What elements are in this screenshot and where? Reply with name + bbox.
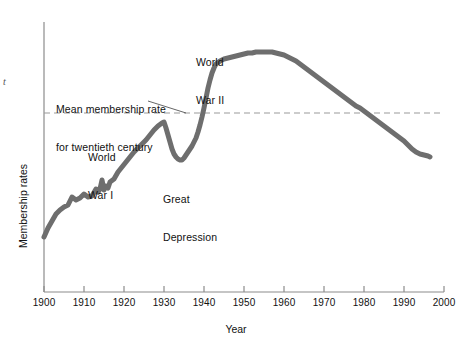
annotation-ww2-line-2: War II	[196, 94, 224, 107]
annotation-world-war-ii: World War II	[196, 31, 224, 131]
annotation-ww2-line-1: World	[196, 56, 224, 69]
x-axis-title: Year	[225, 323, 246, 335]
x-tick-label-1910: 1910	[73, 297, 96, 308]
y-axis-title: Membership rates	[17, 141, 29, 271]
x-tick-label-1980: 1980	[353, 297, 376, 308]
annotation-world-war-i: World War I	[88, 126, 116, 226]
annotation-depression-line-1: Great	[163, 193, 217, 206]
x-tick-label-2000: 2000	[433, 297, 456, 308]
x-tick-label-1960: 1960	[273, 297, 296, 308]
x-tick-label-1970: 1970	[313, 297, 336, 308]
corner-mark: t	[3, 76, 6, 87]
annotation-mean-line-1: Mean membership rate	[56, 103, 166, 116]
annotation-ww1-line-2: War I	[88, 189, 116, 202]
x-tick-label-1920: 1920	[113, 297, 136, 308]
x-tick-label-1900: 1900	[33, 297, 56, 308]
x-axis-ticks	[44, 286, 444, 292]
x-tick-label-1950: 1950	[233, 297, 256, 308]
annotation-ww1-line-1: World	[88, 151, 116, 164]
membership-rates-chart: t Membership rates Year 1900 1910 1920 1…	[0, 0, 471, 355]
annotation-depression-line-2: Depression	[163, 231, 217, 244]
annotation-great-depression: Great Depression	[163, 168, 217, 268]
x-tick-label-1940: 1940	[193, 297, 216, 308]
x-tick-label-1930: 1930	[153, 297, 176, 308]
x-tick-label-1990: 1990	[393, 297, 416, 308]
